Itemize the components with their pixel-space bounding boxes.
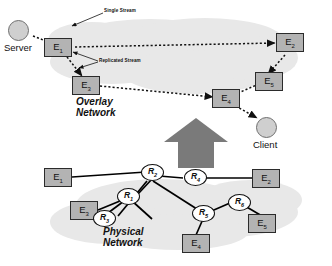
overlay-node-e3: E3: [72, 76, 100, 95]
overlay-node-e2-label: E2: [285, 37, 295, 49]
router-r3-label: R3: [100, 213, 109, 224]
physical-node-e2: E2: [252, 169, 280, 188]
overlay-node-e1: E1: [44, 38, 72, 57]
server-circle: [8, 20, 29, 41]
overlay-node-e3-label: E3: [81, 80, 91, 92]
router-r4-label: R4: [191, 172, 200, 183]
router-r5: R5: [192, 205, 215, 222]
annotation-replicated-stream: Replicated Stream: [99, 58, 141, 63]
overlay-node-e5: E5: [255, 72, 283, 91]
router-r4: R4: [184, 169, 207, 186]
physical-node-e1-label: E1: [53, 172, 63, 184]
overlay-title-line2: Network: [76, 107, 115, 118]
physical-network-title: Physical Network: [103, 226, 144, 248]
overlay-node-e4: E4: [212, 89, 240, 108]
physical-title-line1: Physical: [103, 226, 144, 237]
router-r2-label: R2: [148, 167, 157, 178]
physical-node-e3-label: E3: [79, 205, 89, 217]
overlay-node-e1-label: E1: [53, 42, 63, 54]
client-label: Client: [253, 139, 277, 150]
physical-node-e4-label: E4: [191, 238, 201, 250]
overlay-network-title: Overlay Network: [76, 96, 115, 118]
overlay-title-line1: Overlay: [76, 96, 113, 107]
physical-node-e1: E1: [44, 168, 72, 187]
overlay-node-e5-label: E5: [264, 76, 274, 88]
router-r1: R1: [117, 188, 140, 205]
annotation-single-stream: Single Stream: [104, 8, 136, 13]
router-r3: R3: [93, 210, 116, 227]
network-diagram-figure: Single Stream Replicated Stream Server C…: [0, 0, 332, 266]
physical-node-e2-label: E2: [261, 173, 271, 185]
overlay-node-e2: E2: [276, 33, 304, 52]
physical-node-e5-label: E5: [257, 218, 267, 230]
server-label: Server: [4, 42, 32, 53]
physical-node-e5: E5: [248, 214, 276, 233]
router-r6: R6: [228, 194, 251, 211]
router-r1-label: R1: [124, 191, 133, 202]
overlay-node-e4-label: E4: [221, 93, 231, 105]
router-r6-label: R6: [235, 197, 244, 208]
router-r5-label: R5: [199, 208, 208, 219]
router-r2: R2: [141, 164, 164, 181]
physical-node-e4: E4: [182, 234, 210, 253]
client-circle: [256, 117, 277, 138]
physical-title-line2: Network: [103, 237, 142, 248]
